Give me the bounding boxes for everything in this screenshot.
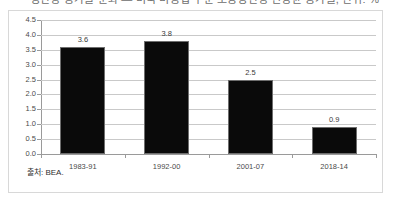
y-axis-tick-label: 1.5: [12, 105, 36, 113]
bar: [228, 80, 273, 154]
y-axis-tick-mark: [37, 20, 41, 21]
y-axis-tick-mark: [37, 65, 41, 66]
bar-value-label: 2.5: [230, 69, 270, 77]
bar-value-label: 3.6: [63, 36, 103, 44]
y-axis-tick-mark: [37, 35, 41, 36]
y-axis-tick-mark: [37, 109, 41, 110]
y-axis-tick-label: 0.5: [12, 135, 36, 143]
y-axis-tick-mark: [37, 50, 41, 51]
figure-title-text: 생산성 증가율 둔화 — 미국 비농업 부문 노동생산성 연평균 증가율, 단위…: [30, 0, 379, 6]
y-axis-tick-label: 0.0: [12, 150, 36, 158]
x-axis-tick-mark: [125, 154, 126, 158]
bar-value-label: 0.9: [314, 116, 354, 124]
x-axis-tick-mark: [209, 154, 210, 158]
y-axis-tick-mark: [37, 80, 41, 81]
y-axis-tick-mark: [37, 94, 41, 95]
y-axis-tick-label: 1.0: [12, 120, 36, 128]
x-axis-tick-mark: [292, 154, 293, 158]
y-axis-tick-label: 2.5: [12, 76, 36, 84]
y-axis-tick-label: 4.0: [12, 31, 36, 39]
chart-figure-frame: 4.54.03.53.02.52.01.51.00.50.0 3.63.82.5…: [8, 10, 383, 193]
x-axis-category-label: 1983-91: [53, 163, 113, 171]
bar-value-label: 3.8: [147, 30, 187, 38]
y-axis-labels: 4.54.03.53.02.52.01.51.00.50.0: [9, 11, 36, 192]
y-axis-tick-mark: [37, 124, 41, 125]
x-axis-category-label: 2018-14: [304, 163, 364, 171]
y-axis-tick-mark: [37, 139, 41, 140]
y-axis-tick-label: 2.0: [12, 90, 36, 98]
y-axis-tick-label: 3.5: [12, 46, 36, 54]
figure-title-cropped: 생산성 증가율 둔화 — 미국 비농업 부문 노동생산성 연평균 증가율, 단위…: [0, 0, 393, 9]
x-axis-category-label: 2001-07: [220, 163, 280, 171]
y-axis-tick-label: 3.0: [12, 61, 36, 69]
plot-area: 3.63.82.50.9: [41, 20, 376, 154]
bar: [144, 41, 189, 154]
bar: [60, 47, 105, 154]
x-axis-tick-mark: [376, 154, 377, 158]
gridline: [41, 20, 376, 21]
x-axis-tick-mark: [41, 154, 42, 158]
bar: [312, 127, 357, 154]
y-axis-tick-label: 4.5: [12, 16, 36, 24]
x-axis-category-label: 1992-00: [137, 163, 197, 171]
